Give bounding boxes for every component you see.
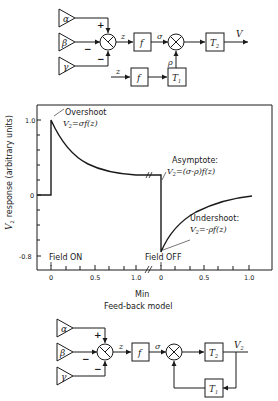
y-tick-1: 1.0: [25, 117, 35, 125]
multiplier-junction: [168, 34, 184, 50]
asymptote-formula: V2=(σ-ρ)f(z): [167, 167, 215, 177]
chart-labels: V2response (arbitrary units) 1.0 0 -0.8 …: [4, 108, 254, 311]
y-axis-ticks: [37, 120, 41, 256]
field-on-label: Field ON: [49, 253, 82, 262]
y-tick-0: 0: [30, 192, 34, 200]
undershoot-formula: V2=-ρf(z): [190, 225, 227, 235]
x-tick-10a: 1.0: [131, 274, 141, 282]
f2-label: f: [136, 73, 142, 83]
bottom-diagram-labels: α β γ + − − z f σ T2 V2 T1: [59, 324, 244, 395]
output-v-label: V: [236, 29, 244, 39]
sign-plus-bottom: +: [94, 330, 102, 340]
z-label: z: [120, 32, 126, 41]
f-label: f: [139, 38, 145, 48]
sign-minus-beta-bottom: −: [82, 354, 90, 364]
sign-plus: +: [97, 20, 105, 30]
field-off-label: Field OFF: [145, 253, 182, 262]
sigma-label-bottom: σ: [155, 342, 161, 351]
t1-label-bottom: T1: [209, 384, 218, 395]
x-axis-label: Min: [135, 290, 149, 299]
top-diagram-labels: α β γ + − − z f σ T2 V z f T1 ρ: [61, 14, 244, 84]
asymptote-label: Asymptote:: [172, 156, 218, 165]
multiplier-junction-bottom: [166, 344, 182, 360]
overshoot-formula: V2=σf(z): [63, 119, 98, 129]
z2-label: z: [115, 67, 121, 76]
x-tick-05a: 0.5: [90, 274, 100, 282]
input-beta-label: β: [61, 38, 67, 48]
t2-label: T2: [210, 38, 219, 49]
x-tick-05b: 0.5: [199, 274, 209, 282]
input-gamma-label: γ: [63, 62, 69, 72]
sign-minus-gamma: −: [97, 54, 105, 64]
rho-label: ρ: [167, 58, 173, 67]
x-tick-0b: 0: [159, 274, 163, 282]
input-alpha-label: α: [63, 14, 69, 24]
f-label-bottom: f: [137, 348, 143, 358]
undershoot-label: Undershoot:: [190, 214, 239, 223]
input-gamma-label-bottom: γ: [61, 372, 67, 382]
x-tick-10b: 1.0: [244, 274, 254, 282]
input-alpha-label-bottom: α: [61, 324, 67, 334]
z-label-bottom: z: [118, 342, 124, 351]
y-axis-label: V2response (arbitrary units): [4, 115, 15, 230]
sign-minus-gamma-bottom: −: [94, 364, 102, 374]
sign-minus-beta: −: [84, 44, 92, 54]
input-beta-label-bottom: β: [59, 348, 65, 358]
t1-label: T1: [172, 73, 181, 84]
output-v2-label-bottom: V2: [234, 340, 244, 351]
sigma-label: σ: [157, 32, 163, 41]
chart-frame: [37, 105, 272, 270]
x-tick-0a: 0: [49, 274, 53, 282]
overshoot-label: Overshoot: [65, 108, 106, 117]
summing-junction: [100, 34, 116, 50]
caption-feedback-model: Feed-back model: [104, 302, 172, 311]
y-tick-neg: -0.8: [19, 253, 32, 261]
summing-junction-bottom: [97, 344, 113, 360]
response-chart: [37, 105, 272, 273]
t2-label-bottom: T2: [209, 348, 218, 359]
